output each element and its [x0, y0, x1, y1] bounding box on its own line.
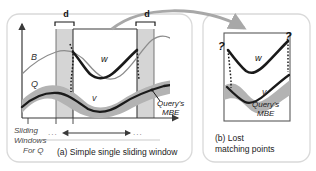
- panel-b-caption-line2: matching points: [215, 144, 275, 155]
- band-label-right: d: [141, 9, 153, 19]
- curve-w-label-b: w: [255, 53, 262, 63]
- panel-b-caption: (b) Lost matching points: [215, 133, 275, 155]
- panel-a-caption: (a) Simple single sliding window: [57, 147, 177, 157]
- baseline-label-b: B: [31, 52, 37, 62]
- mbe-label-a-line2: MBE: [157, 108, 184, 117]
- mbe-label-b: Query's MBE: [252, 100, 279, 118]
- curve-v-label-a: v: [92, 93, 97, 103]
- band-label-left: d: [60, 9, 72, 19]
- curve-w-label-a: w: [101, 54, 108, 64]
- ellipsis-right: ...: [133, 128, 143, 137]
- sliding-label-line1: Sliding: [14, 126, 46, 136]
- curve-v-label-b: v: [262, 87, 267, 97]
- question-mark-left: ?: [218, 40, 225, 52]
- mbe-label-b-line2: MBE: [252, 109, 279, 118]
- window-band-right: [137, 29, 154, 118]
- ellipsis-left: ...: [48, 128, 58, 137]
- mbe-label-a-line1: Query's: [157, 99, 184, 108]
- mbe-label-a: Query's MBE: [157, 99, 184, 117]
- panel-b-caption-line1: (b) Lost: [215, 133, 275, 144]
- question-mark-right: ?: [285, 30, 292, 42]
- query-label-q: Q: [31, 79, 38, 89]
- sliding-label-line2: Windows: [14, 136, 46, 146]
- sliding-windows-label: Sliding Windows For Q: [14, 126, 46, 156]
- sliding-label-line3: For Q: [14, 146, 46, 156]
- mbe-label-b-line1: Query's: [252, 100, 279, 109]
- figure-root: d d B Q w v Query's MBE Sliding Windows …: [0, 0, 316, 171]
